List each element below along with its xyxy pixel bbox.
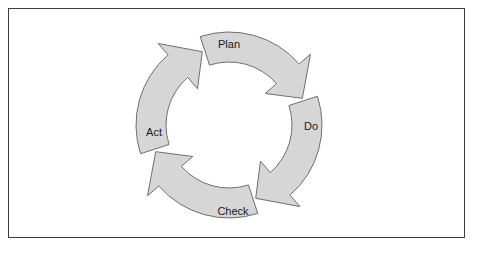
cycle-segment-plan (200, 32, 310, 98)
cycle-label-plan: Plan (218, 38, 240, 50)
cycle-segment-do (256, 96, 322, 206)
cycle-segments-group (136, 32, 322, 218)
pdca-cycle-diagram: PlanDoCheckAct (9, 9, 466, 239)
diagram-frame: PlanDoCheckAct (8, 8, 465, 238)
cycle-label-do: Do (304, 120, 318, 132)
cycle-label-check: Check (217, 205, 249, 217)
cycle-label-act: Act (146, 126, 162, 138)
